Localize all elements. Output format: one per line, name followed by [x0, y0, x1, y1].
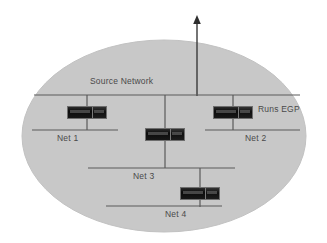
router-net1-icon[interactable]: [67, 106, 107, 119]
bus-label-net-1: Net 1: [57, 133, 78, 143]
diagram-vector-layer: [0, 0, 327, 243]
annotation-runs-egp: Runs EGP: [258, 104, 300, 114]
router-module-panel: [239, 107, 252, 118]
router-chassis-panel: [214, 107, 239, 118]
router-net3-icon[interactable]: [145, 128, 185, 141]
bus-label-net-2: Net 2: [245, 133, 266, 143]
router-chassis-panel: [68, 107, 93, 118]
router-net2-icon[interactable]: [213, 106, 253, 119]
network-diagram-canvas: Source Network Net 1 Net 2 Net 3 Net 4 R…: [0, 0, 327, 243]
router-module-panel: [206, 188, 219, 199]
router-module-panel: [93, 107, 106, 118]
router-net4-icon[interactable]: [180, 187, 220, 200]
bus-label-source-network: Source Network: [90, 76, 153, 86]
router-chassis-panel: [146, 129, 171, 140]
router-module-panel: [171, 129, 184, 140]
bus-label-net-4: Net 4: [165, 209, 186, 219]
arrow-head-icon: [193, 15, 201, 24]
router-chassis-panel: [181, 188, 206, 199]
bus-label-net-3: Net 3: [133, 171, 154, 181]
